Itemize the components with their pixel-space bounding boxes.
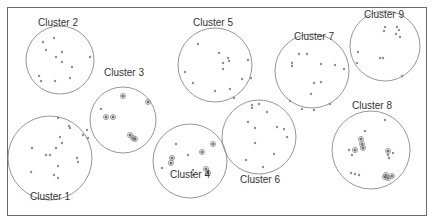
data-point — [233, 97, 235, 99]
data-point — [222, 62, 224, 64]
data-point — [310, 93, 312, 95]
highlighted-point — [360, 138, 363, 141]
cluster-label: Cluster 6 — [240, 175, 280, 185]
cluster-3 — [90, 87, 156, 153]
cluster-label: Cluster 9 — [364, 10, 404, 20]
data-point — [76, 157, 78, 159]
data-point — [61, 142, 63, 144]
data-point — [45, 49, 47, 51]
highlighted-point — [134, 138, 137, 141]
data-point — [313, 109, 315, 111]
data-point — [54, 80, 56, 82]
data-point — [45, 154, 47, 156]
cluster-label: Cluster 2 — [38, 18, 78, 28]
data-point — [57, 165, 59, 167]
data-point — [273, 153, 275, 155]
data-point — [247, 121, 249, 123]
data-point — [71, 66, 73, 68]
data-point — [313, 82, 315, 84]
data-point — [86, 129, 88, 131]
data-point — [398, 29, 400, 31]
cluster-7 — [275, 34, 349, 111]
data-point — [357, 51, 359, 53]
data-point — [57, 177, 59, 179]
data-point — [258, 103, 260, 105]
data-point — [387, 154, 389, 156]
data-point — [161, 167, 163, 169]
data-point — [250, 77, 252, 79]
highlighted-point — [391, 175, 394, 178]
data-point — [351, 154, 353, 156]
data-point — [301, 108, 303, 110]
cluster-label: Cluster 3 — [104, 68, 144, 78]
cluster-1 — [8, 116, 92, 200]
data-point — [192, 82, 194, 84]
data-point — [276, 126, 278, 128]
data-point — [392, 152, 394, 154]
cluster-8 — [332, 111, 410, 189]
cluster-label: Cluster 8 — [352, 101, 392, 111]
data-point — [175, 143, 177, 145]
data-point — [364, 130, 366, 132]
data-point — [289, 100, 291, 102]
data-point — [38, 75, 40, 77]
data-point — [334, 64, 336, 66]
cluster-boundary-circle — [275, 34, 349, 108]
data-point — [343, 68, 345, 70]
data-point — [291, 62, 293, 64]
data-point — [49, 154, 51, 156]
cluster-label: Cluster 1 — [30, 192, 70, 202]
data-point — [348, 149, 350, 151]
data-point — [286, 136, 288, 138]
data-point — [55, 56, 57, 58]
data-point — [356, 62, 358, 64]
cluster-canvas — [0, 0, 436, 223]
data-point — [254, 142, 256, 144]
data-point — [283, 128, 285, 130]
data-point — [89, 56, 91, 58]
highlighted-point — [170, 162, 173, 165]
data-point — [53, 37, 55, 39]
cluster-boundary-circle — [26, 26, 94, 94]
data-point — [55, 147, 57, 149]
data-point — [251, 107, 253, 109]
cluster-4 — [153, 124, 227, 198]
data-point — [354, 173, 356, 175]
data-point — [241, 78, 243, 80]
data-point — [87, 137, 89, 139]
data-point — [69, 127, 71, 129]
data-point — [53, 174, 55, 176]
highlighted-point — [122, 95, 125, 98]
data-point — [383, 30, 385, 32]
data-point — [396, 26, 398, 28]
cluster-boundary-circle — [350, 11, 420, 81]
data-point — [218, 52, 220, 54]
cluster-6 — [222, 100, 296, 174]
highlighted-point — [362, 147, 365, 150]
data-point — [184, 71, 186, 73]
highlighted-point — [201, 151, 204, 154]
data-point — [350, 172, 352, 174]
data-point — [266, 111, 268, 113]
data-point — [228, 60, 230, 62]
data-point — [82, 134, 84, 136]
data-point — [320, 81, 322, 83]
cluster-boundary-circle — [153, 124, 227, 198]
data-point — [59, 136, 61, 138]
highlighted-point — [354, 149, 357, 152]
highlighted-point — [387, 150, 390, 153]
data-point — [382, 57, 384, 59]
data-point — [229, 88, 231, 90]
data-point — [262, 166, 264, 168]
cluster-label: Cluster 5 — [193, 18, 233, 28]
data-point — [399, 36, 401, 38]
data-point — [77, 161, 79, 163]
data-point — [69, 77, 71, 79]
highlighted-point — [171, 157, 174, 160]
data-point — [222, 68, 224, 70]
data-point — [320, 63, 322, 65]
data-point — [187, 154, 189, 156]
data-point — [61, 51, 63, 53]
data-point — [197, 43, 199, 45]
data-point — [40, 80, 42, 82]
